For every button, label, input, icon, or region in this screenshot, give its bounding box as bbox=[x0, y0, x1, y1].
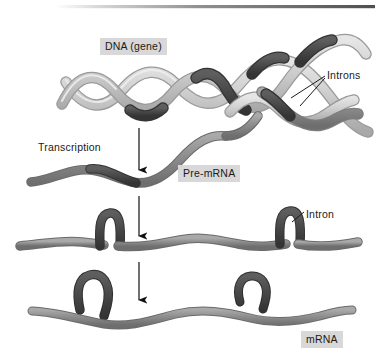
label-dna-gene: DNA (gene) bbox=[100, 38, 167, 55]
excised-intron-left bbox=[78, 275, 108, 316]
intron-loop-left bbox=[100, 213, 121, 246]
dna-intron-segment-back bbox=[252, 57, 284, 74]
label-intron: Intron bbox=[306, 208, 334, 220]
intron-loop-right bbox=[280, 211, 301, 244]
label-introns: Introns bbox=[327, 69, 361, 81]
excised-intron-right bbox=[238, 276, 266, 309]
label-mrna: mRNA bbox=[301, 331, 343, 348]
label-pre-mrna: Pre-mRNA bbox=[178, 165, 240, 182]
label-transcription: Transcription bbox=[38, 141, 101, 153]
top-divider-rule bbox=[55, 5, 375, 8]
